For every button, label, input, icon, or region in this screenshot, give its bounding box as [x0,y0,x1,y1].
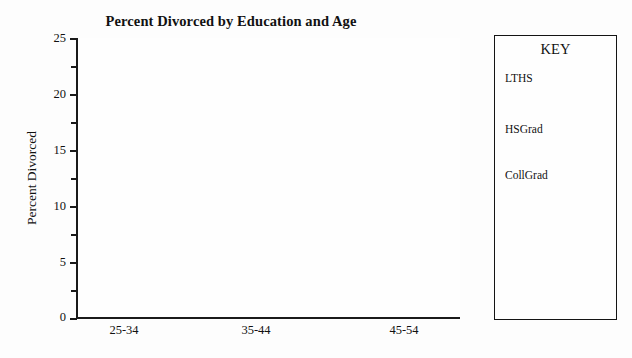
y-axis-minor-tick-2-5 [71,290,77,292]
x-axis-tick-label-45-54: 45-54 [359,323,449,338]
y-axis-tick-10 [70,206,77,208]
figure-canvas: Percent Divorced by Education and Age 25… [0,0,632,358]
y-axis-tick-0 [70,318,77,320]
x-axis-tick-label-35-44: 35-44 [211,323,301,338]
x-axis-tick-label-25-34: 25-34 [79,323,169,338]
y-axis-tick-5 [70,262,77,264]
legend-entry-lths: LTHS [505,72,533,84]
y-axis-tick-label-25: 25 [18,32,66,44]
y-axis-minor-tick-22-5 [71,66,77,68]
legend-key-box: KEY LTHS HSGrad CollGrad [494,35,617,320]
legend-entry-hsgrad: HSGrad [505,123,543,135]
y-axis-minor-tick-7-5 [71,234,77,236]
y-axis-tick-15 [70,150,77,152]
y-axis-minor-tick-12-5 [71,178,77,180]
y-axis-title: Percent Divorced [24,83,40,273]
legend-title: KEY [495,41,616,58]
chart-title: Percent Divorced by Education and Age [0,13,462,30]
y-axis-tick-25 [70,38,77,40]
plot-area [77,38,460,318]
y-axis-tick-20 [70,94,77,96]
legend-entry-collgrad: CollGrad [505,169,548,181]
x-axis-line [76,317,460,319]
y-axis-minor-tick-17-5 [71,122,77,124]
y-axis-tick-label-0: 0 [18,311,66,323]
